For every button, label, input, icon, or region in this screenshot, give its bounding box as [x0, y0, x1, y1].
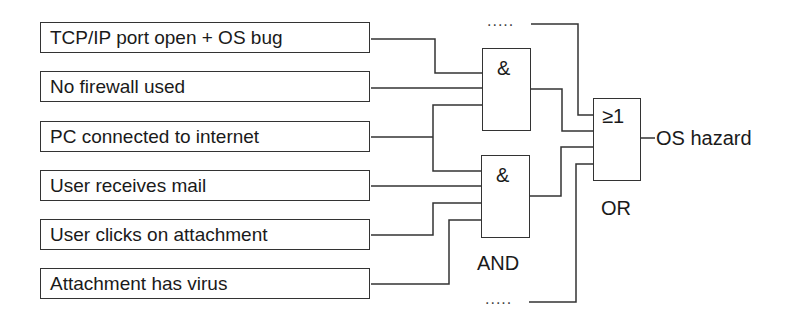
input-event-pc-connected: PC connected to internet — [40, 121, 370, 152]
and-gate-lower: & — [481, 155, 530, 238]
or-gate-symbol: ≥1 — [602, 105, 624, 128]
input-event-label: User receives mail — [50, 175, 206, 197]
and-gate-symbol: & — [497, 57, 510, 80]
input-event-label: User clicks on attachment — [50, 224, 268, 246]
input-event-label: PC connected to internet — [50, 126, 259, 148]
and-gate-caption: AND — [477, 252, 519, 275]
or-gate-caption: OR — [601, 197, 631, 220]
input-event-label: TCP/IP port open + OS bug — [50, 27, 283, 49]
input-event-label: No firewall used — [50, 76, 185, 98]
ellipsis-bottom: ..... — [485, 290, 512, 308]
input-event-label: Attachment has virus — [50, 273, 227, 295]
input-event-user-receives-mail: User receives mail — [40, 170, 370, 201]
and-gate-upper: & — [482, 48, 531, 131]
input-event-user-clicks-attachment: User clicks on attachment — [40, 219, 370, 250]
output-event-label: OS hazard — [656, 127, 752, 150]
and-gate-symbol: & — [496, 164, 509, 187]
ellipsis-top: ..... — [487, 12, 514, 30]
input-event-no-firewall: No firewall used — [40, 71, 370, 102]
or-gate: ≥1 — [593, 98, 641, 181]
input-event-tcpip-port-open: TCP/IP port open + OS bug — [40, 22, 370, 53]
input-event-attachment-has-virus: Attachment has virus — [40, 268, 370, 299]
